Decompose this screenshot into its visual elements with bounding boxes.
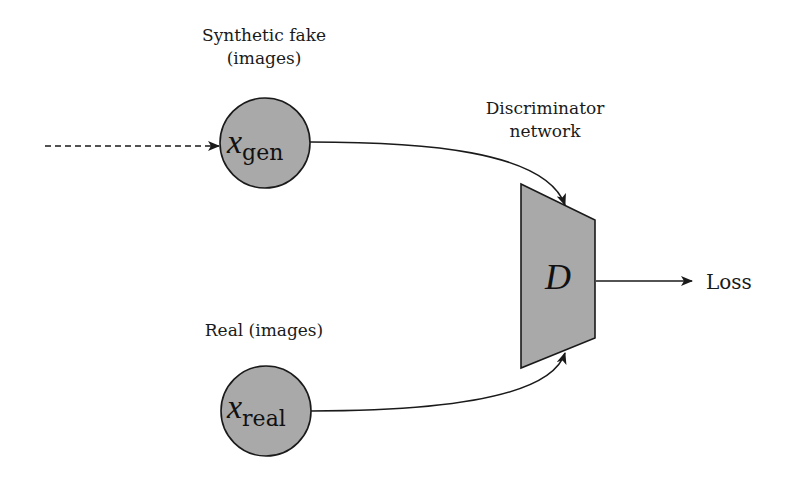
loss-label: Loss — [706, 270, 752, 294]
x-gen-node: xgen — [220, 98, 310, 188]
gan-diagram: Synthetic fake (images) xgen Discriminat… — [0, 0, 802, 481]
x-real-node: xreal — [221, 366, 311, 456]
discriminator-caption-line1: Discriminator — [486, 98, 606, 118]
x-real-symbol: x — [226, 388, 242, 425]
x-real-subscript: real — [242, 406, 286, 431]
x-gen-caption-line1: Synthetic fake — [202, 25, 326, 45]
x-gen-subscript: gen — [242, 140, 283, 165]
x-gen-caption-line2: (images) — [227, 48, 302, 68]
discriminator-symbol: D — [544, 257, 571, 297]
discriminator-node: D — [521, 184, 595, 368]
discriminator-caption-line2: network — [509, 121, 581, 141]
x-gen-symbol: x — [226, 123, 242, 160]
x-real-caption: Real (images) — [205, 320, 323, 340]
